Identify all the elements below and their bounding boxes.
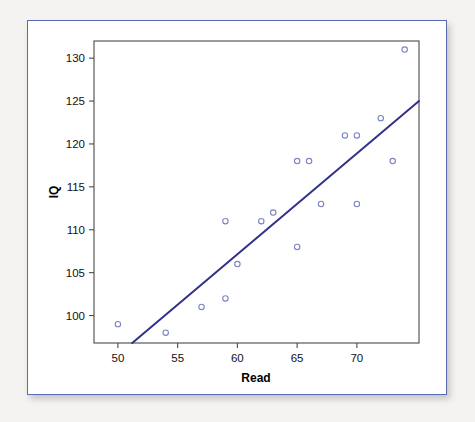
data-point	[163, 330, 168, 335]
x-tick-label: 60	[231, 352, 244, 364]
y-tick-label: 125	[66, 95, 85, 107]
plot-frame	[94, 41, 419, 343]
screenshot-root: 100105110115120125130 5055606570 IQ Read	[0, 0, 475, 422]
data-point	[115, 321, 120, 326]
x-tick-label: 70	[350, 352, 363, 364]
data-point	[342, 133, 347, 138]
data-point	[306, 158, 311, 163]
x-tick-label: 55	[171, 352, 184, 364]
data-point	[318, 201, 323, 206]
regression-line-path	[132, 101, 419, 343]
data-point	[235, 261, 240, 266]
data-point	[354, 201, 359, 206]
data-point	[402, 47, 407, 52]
data-point	[378, 116, 383, 121]
x-tick-label: 50	[111, 352, 124, 364]
y-tick-label: 120	[66, 138, 85, 150]
x-axis-title: Read	[241, 371, 270, 385]
data-point	[199, 304, 204, 309]
figure-card: 100105110115120125130 5055606570 IQ Read	[27, 20, 447, 395]
data-point	[259, 218, 264, 223]
y-axis-title: IQ	[47, 186, 61, 199]
data-point	[294, 244, 299, 249]
x-tick-label: 65	[291, 352, 304, 364]
y-axis: 100105110115120125130	[66, 52, 94, 321]
y-tick-label: 105	[66, 267, 85, 279]
data-point	[223, 218, 228, 223]
data-point	[390, 158, 395, 163]
x-axis: 5055606570	[111, 343, 363, 364]
data-points	[115, 47, 407, 336]
plot-area-wrapper: 100105110115120125130 5055606570 IQ Read	[28, 21, 448, 396]
y-tick-label: 100	[66, 310, 85, 322]
data-point	[271, 210, 276, 215]
y-tick-label: 115	[67, 181, 85, 193]
data-point	[294, 158, 299, 163]
scatter-chart: 100105110115120125130 5055606570 IQ Read	[28, 21, 448, 396]
data-point	[223, 296, 228, 301]
data-point	[354, 133, 359, 138]
y-tick-label: 130	[66, 52, 85, 64]
regression-line	[132, 101, 419, 343]
y-tick-label: 110	[67, 224, 85, 236]
